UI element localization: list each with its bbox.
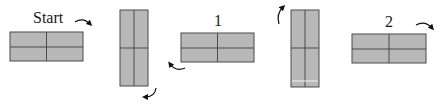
- rotation-diagram: Start 1 2: [0, 0, 444, 106]
- rectangle-step-1: [181, 33, 254, 62]
- rectangle-rotated-1: [120, 10, 148, 86]
- rotate-arrow-icon: [278, 7, 283, 24]
- rotate-arrow-icon: [170, 64, 185, 69]
- label-start: Start: [33, 10, 63, 26]
- rotate-arrow-icon: [416, 23, 432, 28]
- label-step-1: 1: [214, 13, 222, 29]
- rotate-arrow-icon: [75, 20, 90, 24]
- rectangle-step-2: [352, 34, 426, 63]
- diagram-canvas: [0, 0, 444, 106]
- rotate-arrow-icon: [145, 88, 156, 97]
- label-step-2: 2: [385, 14, 393, 30]
- rectangle-rotated-2: [291, 10, 319, 87]
- rectangle-start: [10, 32, 83, 61]
